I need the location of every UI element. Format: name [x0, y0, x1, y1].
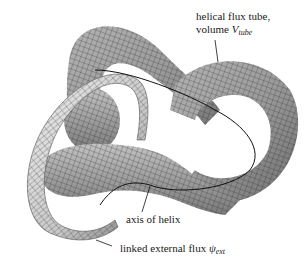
external-label-leader [96, 240, 112, 246]
tube-label-line1: helical flux tube, [196, 10, 270, 23]
tube-label-leader [215, 40, 218, 62]
external-flux-symbol: ψ [209, 242, 216, 254]
axis-label: axis of helix [126, 213, 180, 226]
external-flux-label: linked external flux ψext [120, 242, 225, 258]
helix-diagram [0, 0, 307, 272]
tube-label: helical flux tube, volume Vtube [196, 10, 270, 39]
tube-label-line2: volume Vtube [196, 23, 270, 39]
